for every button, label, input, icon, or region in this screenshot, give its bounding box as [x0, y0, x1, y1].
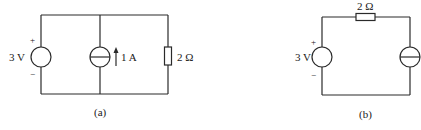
caption-a: (a) [94, 106, 107, 119]
circuit-figure: + − 3 V 1 A 2 Ω (a) 2 Ω + − 3 V [0, 0, 421, 130]
minus-sign: − [30, 69, 35, 79]
resistor-icon [356, 14, 375, 21]
voltage-label: 3 V [9, 51, 25, 63]
current-label: 1 A [121, 51, 137, 63]
resistor-icon [165, 47, 172, 65]
voltage-source-icon [31, 47, 51, 67]
caption-b: (b) [359, 108, 372, 121]
circuit-a: + − 3 V 1 A 2 Ω (a) [9, 15, 193, 119]
minus-sign: − [311, 70, 316, 80]
plus-sign: + [30, 35, 35, 45]
voltage-source-icon [312, 47, 332, 67]
plus-sign: + [311, 37, 316, 47]
current-source-icon [400, 47, 420, 67]
voltage-label: 3 V [295, 51, 311, 63]
resistor-label: 2 Ω [177, 51, 193, 63]
current-direction-arrow-icon [114, 47, 119, 66]
current-source-icon [90, 47, 110, 67]
circuit-b: 2 Ω + − 3 V (b) [295, 0, 420, 121]
resistor-label: 2 Ω [357, 0, 373, 12]
